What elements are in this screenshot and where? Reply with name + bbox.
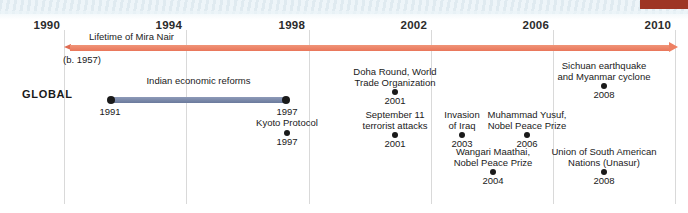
point-event: Sichuan earthquake and Myanmar cyclone20… xyxy=(504,61,688,100)
lifetime-arrow-right-icon xyxy=(669,42,678,52)
gridline-1994 xyxy=(186,30,187,204)
point-event-title: Union of South American Nations (Unasur) xyxy=(504,147,688,168)
span-event-start-year: 1991 xyxy=(99,106,120,117)
point-event-year: 2008 xyxy=(504,89,688,100)
birth-year-note: (b. 1957) xyxy=(63,54,101,65)
point-event: Muhammad Yusuf, Nobel Peace Prize2006 xyxy=(427,110,627,149)
point-event-title: Doha Round, World Trade Organization xyxy=(295,67,495,88)
point-event-title: Sichuan earthquake and Myanmar cyclone xyxy=(504,61,688,82)
span-event-end-dot xyxy=(282,96,290,104)
point-event-year: 2001 xyxy=(295,95,495,106)
span-event-start-dot xyxy=(107,96,115,104)
point-event-title: Muhammad Yusuf, Nobel Peace Prize xyxy=(427,110,627,131)
point-event-year: 2008 xyxy=(504,175,688,186)
lifetime-bar-shaft xyxy=(70,45,670,51)
lifetime-label: Lifetime of Mira Nair xyxy=(89,31,174,42)
year-label-2006: 2006 xyxy=(523,19,553,31)
row-label-global: GLOBAL xyxy=(22,88,73,100)
year-label-2002: 2002 xyxy=(401,19,431,31)
year-label-1998: 1998 xyxy=(279,19,309,31)
year-label-2010: 2010 xyxy=(645,19,675,31)
year-label-1994: 1994 xyxy=(156,19,186,31)
span-event-bar xyxy=(110,97,287,103)
span-event-title: Indian economic reforms xyxy=(146,75,250,86)
year-label-1990: 1990 xyxy=(34,19,64,31)
lifetime-bar xyxy=(64,44,678,52)
timeline-chart: 199019941998200220062010 Lifetime of Mir… xyxy=(0,0,688,213)
point-event: Doha Round, World Trade Organization2001 xyxy=(295,67,495,106)
point-event: Union of South American Nations (Unasur)… xyxy=(504,147,688,186)
